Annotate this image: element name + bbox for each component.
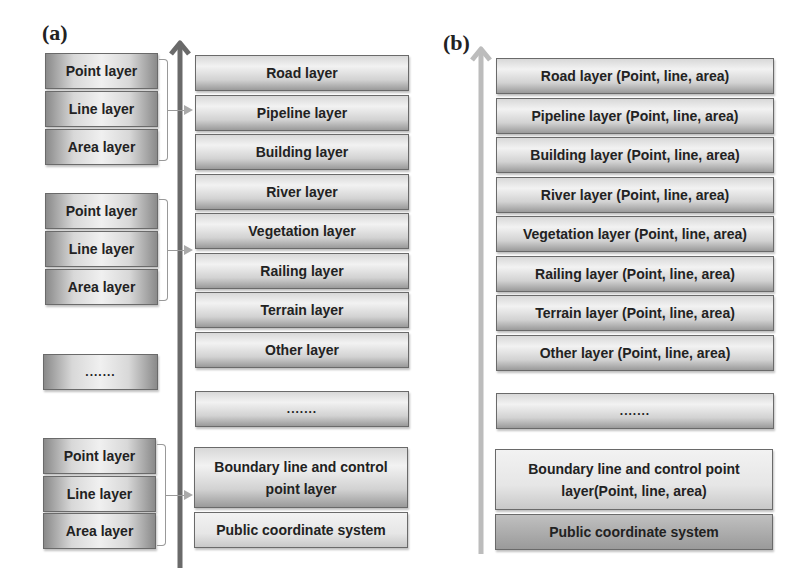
public-coordinate-system-box: Public coordinate system xyxy=(495,514,773,550)
point-layer-box: Point layer xyxy=(45,53,158,89)
point-layer-box: Point layer xyxy=(43,438,156,474)
building-layer-box: Building layer (Point, line, area) xyxy=(496,137,774,173)
line-layer-box: Line layer xyxy=(45,91,158,127)
group-brace xyxy=(159,199,168,301)
arrow-head-icon xyxy=(184,245,193,255)
group-brace xyxy=(157,444,166,546)
area-layer-box: Area layer xyxy=(45,269,158,305)
railing-layer-box: Railing layer xyxy=(195,253,409,289)
ellipsis-box: ....... xyxy=(195,391,409,427)
panel-a-label: (a) xyxy=(42,20,68,46)
river-layer-box: River layer xyxy=(195,174,409,210)
pipeline-layer-box: Pipeline layer xyxy=(195,95,409,131)
arrow-head-icon xyxy=(184,105,193,115)
ellipsis-box: ....... xyxy=(43,354,158,390)
road-layer-box: Road layer (Point, line, area) xyxy=(496,58,774,94)
area-layer-box: Area layer xyxy=(43,513,156,549)
terrain-layer-box: Terrain layer xyxy=(195,292,409,328)
terrain-layer-box: Terrain layer (Point, line, area) xyxy=(496,295,774,331)
area-layer-box: Area layer xyxy=(45,129,158,165)
river-layer-box: River layer (Point, line, area) xyxy=(496,177,774,213)
public-coordinate-system-box: Public coordinate system xyxy=(194,512,408,548)
railing-layer-box: Railing layer (Point, line, area) xyxy=(496,256,774,292)
vegetation-layer-box: Vegetation layer (Point, line, area) xyxy=(496,216,774,252)
road-layer-box: Road layer xyxy=(195,55,409,91)
panel-b-label: (b) xyxy=(443,30,470,56)
building-layer-box: Building layer xyxy=(195,134,409,170)
other-layer-box: Other layer xyxy=(195,332,409,368)
arrow-head-icon xyxy=(184,490,193,500)
other-layer-box: Other layer (Point, line, area) xyxy=(496,335,774,371)
line-layer-box: Line layer xyxy=(45,231,158,267)
boundary-line-control-point-layer-box: Boundary line and control point layer(Po… xyxy=(495,449,773,510)
ellipsis-box: ....... xyxy=(496,393,774,429)
vegetation-layer-box: Vegetation layer xyxy=(195,213,409,249)
pipeline-layer-box: Pipeline layer (Point, line, area) xyxy=(496,98,774,134)
group-brace xyxy=(159,59,168,161)
boundary-line-control-point-layer-box: Boundary line and control point layer xyxy=(194,447,408,508)
vertical-arrow-icon xyxy=(469,44,493,556)
connector-line xyxy=(166,495,186,496)
line-layer-box: Line layer xyxy=(43,476,156,512)
point-layer-box: Point layer xyxy=(45,193,158,229)
